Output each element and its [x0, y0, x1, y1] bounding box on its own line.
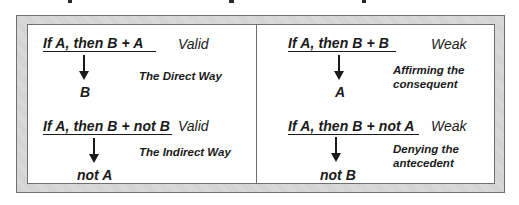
premise: If A, then B + B: [288, 36, 396, 52]
arrow-down-icon: [334, 55, 344, 81]
premise: If A, then B + not B: [43, 119, 172, 135]
verdict-valid: Valid: [178, 119, 209, 134]
conclusion: A: [335, 85, 345, 100]
verdict-weak: Weak: [431, 119, 467, 134]
premise: If A, then B + A: [43, 36, 156, 52]
form-label: The Direct Way: [139, 69, 222, 83]
form-label-line-1: Denying the: [393, 142, 459, 156]
column-divider: [256, 24, 257, 184]
verdict-weak: Weak: [431, 37, 467, 52]
arrow-down-icon: [331, 137, 341, 163]
verdict-valid: Valid: [178, 37, 209, 52]
conclusion: B: [80, 85, 90, 100]
conclusion: not B: [320, 168, 356, 183]
arrow-down-icon: [89, 138, 99, 164]
form-label-line-1: Affirming the: [393, 63, 464, 77]
form-label-line-2: consequent: [393, 77, 458, 91]
conclusion: not A: [77, 168, 112, 183]
arrow-down-icon: [79, 55, 89, 81]
form-label-line-2: antecedent: [393, 156, 454, 170]
premise: If A, then B + not A: [288, 119, 419, 135]
form-label: The Indirect Way: [139, 145, 231, 159]
clipped-text-above: [0, 0, 519, 6]
